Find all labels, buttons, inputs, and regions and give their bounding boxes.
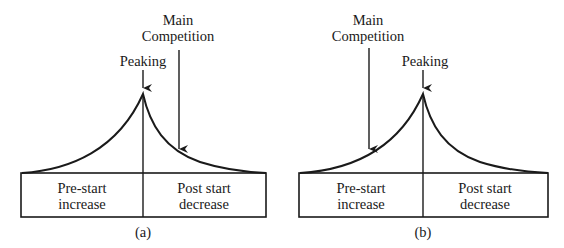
- panel-caption: (b): [415, 224, 432, 241]
- panel-a: Peaking Main Competition Pre-start incre…: [21, 12, 266, 241]
- main-competition-label-line2: Competition: [332, 28, 405, 44]
- post-start-label: Post start: [458, 180, 512, 196]
- peaking-curve: [300, 94, 548, 173]
- panel-b: Peaking Main Competition Pre-start incre…: [299, 12, 548, 241]
- peaking-diagram: Peaking Main Competition Pre-start incre…: [0, 0, 564, 248]
- increase-label: increase: [337, 196, 385, 212]
- panel-caption: (a): [135, 224, 151, 241]
- pre-start-label: Pre-start: [57, 180, 106, 196]
- main-competition-label-line1: Main: [163, 12, 194, 28]
- main-competition-label-line1: Main: [353, 12, 384, 28]
- decrease-label: decrease: [179, 196, 229, 212]
- peaking-curve: [22, 94, 266, 173]
- post-start-label: Post start: [177, 180, 231, 196]
- peaking-label: Peaking: [402, 53, 449, 69]
- pre-start-label: Pre-start: [336, 180, 385, 196]
- main-competition-label-line2: Competition: [142, 28, 215, 44]
- decrease-label: decrease: [460, 196, 510, 212]
- increase-label: increase: [58, 196, 106, 212]
- peaking-label: Peaking: [120, 53, 167, 69]
